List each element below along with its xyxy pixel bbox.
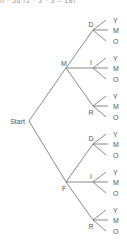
edge-r-o [93,106,106,117]
edge-start-m [29,68,66,121]
edge-i-y [93,58,106,68]
leaf-m: M [113,179,119,186]
leaf-m: M [113,103,119,110]
node-d-level2: D [88,135,93,142]
edge-m-r [66,68,93,106]
tree-diagram: StartMDYMOIYMORYMOFDYMOIYMORYMO [0,0,127,244]
leaf-o: O [113,38,119,45]
leaf-m: M [113,65,119,72]
edge-m-d [66,30,93,68]
leaf-o: O [113,152,119,159]
leaf-y: Y [113,131,118,138]
edge-r-o [93,220,106,231]
leaf-m: M [113,217,119,224]
leaf-y: Y [113,55,118,62]
edge-f-r [66,182,93,220]
leaf-m: M [113,27,119,34]
edge-d-o [93,30,106,41]
node-f-level1: F [62,185,66,192]
edge-d-y [93,134,106,144]
node-m-level1: M [61,60,67,67]
edge-start-f [29,121,66,182]
node-i-level2: I [90,59,92,66]
leaf-o: O [113,114,119,121]
edge-f-d [66,144,93,182]
node-d-level2: D [88,21,93,28]
edge-i-y [93,172,106,182]
node-i-level2: I [90,173,92,180]
leaf-y: Y [113,93,118,100]
edge-r-y [93,96,106,106]
leaf-o: O [113,228,119,235]
edge-r-y [93,210,106,220]
leaf-y: Y [113,207,118,214]
edge-i-o [93,68,106,79]
leaf-o: O [113,190,119,197]
edge-d-y [93,20,106,30]
edge-d-o [93,144,106,155]
leaf-m: M [113,141,119,148]
node-start: Start [10,118,25,125]
leaf-o: O [113,76,119,83]
leaf-y: Y [113,17,118,24]
edge-i-o [93,182,106,193]
node-r-level2: R [88,223,93,230]
leaf-y: Y [113,169,118,176]
node-r-level2: R [88,109,93,116]
